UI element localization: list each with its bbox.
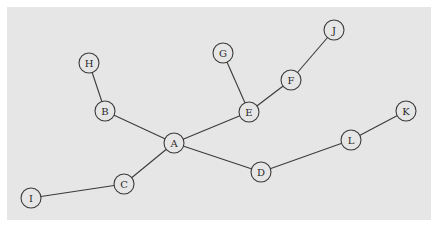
- node-l: L: [341, 130, 361, 150]
- edge-a-d: [174, 143, 261, 172]
- edge-c-i: [31, 184, 124, 198]
- node-j: J: [324, 20, 344, 40]
- node-label: A: [169, 138, 178, 149]
- tree-diagram: ABCDEFGHIJKL: [0, 0, 440, 233]
- edge-b-a: [105, 111, 174, 143]
- node-label: E: [245, 107, 252, 118]
- node-label: D: [257, 167, 265, 178]
- node-label: I: [29, 193, 33, 204]
- node-h: H: [79, 53, 99, 73]
- node-label: G: [219, 48, 227, 59]
- node-e: E: [239, 102, 259, 122]
- node-b: B: [95, 101, 115, 121]
- node-label: H: [85, 58, 94, 69]
- edge-a-e: [174, 112, 249, 143]
- node-f: F: [281, 70, 301, 90]
- node-label: L: [348, 135, 355, 146]
- node-label: J: [331, 25, 336, 36]
- node-label: C: [120, 179, 128, 190]
- node-k: K: [396, 101, 416, 121]
- nodes-layer: ABCDEFGHIJKL: [21, 20, 416, 208]
- node-c: C: [114, 174, 134, 194]
- node-label: B: [101, 106, 108, 117]
- node-i: I: [21, 188, 41, 208]
- node-label: K: [402, 106, 410, 117]
- node-g: G: [213, 43, 233, 63]
- node-d: D: [251, 162, 271, 182]
- edge-d-l: [261, 140, 351, 172]
- node-label: F: [288, 75, 295, 86]
- node-a: A: [164, 133, 184, 153]
